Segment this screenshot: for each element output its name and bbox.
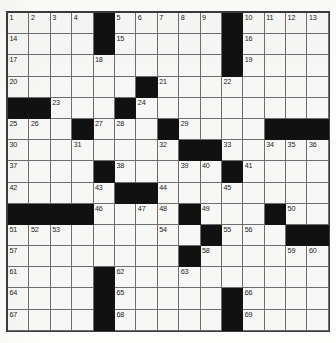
crossword-open-cell[interactable] [243,204,264,225]
crossword-open-cell[interactable] [94,246,115,267]
crossword-open-cell[interactable] [307,161,328,182]
crossword-open-cell[interactable] [51,55,72,76]
crossword-open-cell[interactable] [307,183,328,204]
crossword-open-cell[interactable] [51,246,72,267]
crossword-open-cell[interactable] [286,267,307,288]
crossword-open-cell[interactable] [136,161,157,182]
crossword-open-cell[interactable] [201,34,222,55]
crossword-open-cell[interactable]: 19 [243,55,264,76]
crossword-open-cell[interactable]: 21 [158,77,179,98]
crossword-open-cell[interactable]: 68 [115,310,136,331]
crossword-open-cell[interactable]: 67 [8,310,29,331]
crossword-open-cell[interactable] [29,55,50,76]
crossword-open-cell[interactable] [72,225,93,246]
crossword-open-cell[interactable] [29,246,50,267]
crossword-open-cell[interactable] [94,98,115,119]
crossword-open-cell[interactable] [136,34,157,55]
crossword-open-cell[interactable] [179,77,200,98]
crossword-open-cell[interactable] [286,98,307,119]
crossword-open-cell[interactable]: 61 [8,267,29,288]
crossword-open-cell[interactable]: 20 [8,77,29,98]
crossword-open-cell[interactable] [72,310,93,331]
crossword-open-cell[interactable] [243,267,264,288]
crossword-open-cell[interactable] [222,246,243,267]
crossword-open-cell[interactable] [72,77,93,98]
crossword-open-cell[interactable] [29,161,50,182]
crossword-open-cell[interactable] [243,183,264,204]
crossword-open-cell[interactable]: 60 [307,246,328,267]
crossword-open-cell[interactable] [136,267,157,288]
crossword-open-cell[interactable] [265,161,286,182]
crossword-open-cell[interactable]: 53 [51,225,72,246]
crossword-open-cell[interactable]: 22 [222,77,243,98]
crossword-open-cell[interactable]: 5 [115,13,136,34]
crossword-open-cell[interactable] [158,34,179,55]
crossword-open-cell[interactable] [286,34,307,55]
crossword-open-cell[interactable] [307,77,328,98]
crossword-open-cell[interactable] [201,267,222,288]
crossword-open-cell[interactable]: 54 [158,225,179,246]
crossword-open-cell[interactable] [51,77,72,98]
crossword-open-cell[interactable] [51,267,72,288]
crossword-open-cell[interactable]: 33 [222,140,243,161]
crossword-open-cell[interactable] [115,204,136,225]
crossword-open-cell[interactable] [158,98,179,119]
crossword-open-cell[interactable]: 30 [8,140,29,161]
crossword-open-cell[interactable] [29,267,50,288]
crossword-open-cell[interactable] [51,183,72,204]
crossword-open-cell[interactable] [72,161,93,182]
crossword-open-cell[interactable]: 26 [29,119,50,140]
crossword-open-cell[interactable]: 55 [222,225,243,246]
crossword-open-cell[interactable]: 34 [265,140,286,161]
crossword-open-cell[interactable] [72,34,93,55]
crossword-open-cell[interactable]: 45 [222,183,243,204]
crossword-open-cell[interactable] [115,77,136,98]
crossword-open-cell[interactable] [265,288,286,309]
crossword-open-cell[interactable] [29,140,50,161]
crossword-open-cell[interactable]: 43 [94,183,115,204]
crossword-open-cell[interactable]: 1 [8,13,29,34]
crossword-open-cell[interactable] [136,140,157,161]
crossword-open-cell[interactable]: 44 [158,183,179,204]
crossword-open-cell[interactable]: 49 [201,204,222,225]
crossword-open-cell[interactable] [72,267,93,288]
crossword-open-cell[interactable]: 15 [115,34,136,55]
crossword-open-cell[interactable] [265,310,286,331]
crossword-open-cell[interactable] [222,267,243,288]
crossword-open-cell[interactable] [51,119,72,140]
crossword-open-cell[interactable] [243,140,264,161]
crossword-open-cell[interactable] [307,55,328,76]
crossword-open-cell[interactable] [201,310,222,331]
crossword-open-cell[interactable]: 36 [307,140,328,161]
crossword-open-cell[interactable] [136,310,157,331]
crossword-open-cell[interactable] [307,288,328,309]
crossword-open-cell[interactable] [222,204,243,225]
crossword-open-cell[interactable] [72,98,93,119]
crossword-open-cell[interactable]: 41 [243,161,264,182]
crossword-open-cell[interactable]: 46 [94,204,115,225]
crossword-open-cell[interactable] [286,55,307,76]
crossword-open-cell[interactable]: 35 [286,140,307,161]
crossword-open-cell[interactable]: 13 [307,13,328,34]
crossword-open-cell[interactable] [201,98,222,119]
crossword-open-cell[interactable]: 4 [72,13,93,34]
crossword-open-cell[interactable] [265,183,286,204]
crossword-open-cell[interactable]: 28 [115,119,136,140]
crossword-open-cell[interactable] [72,183,93,204]
crossword-open-cell[interactable] [115,55,136,76]
crossword-open-cell[interactable] [179,34,200,55]
crossword-open-cell[interactable] [201,288,222,309]
crossword-open-cell[interactable]: 24 [136,98,157,119]
crossword-open-cell[interactable]: 12 [286,13,307,34]
crossword-open-cell[interactable] [115,225,136,246]
crossword-open-cell[interactable]: 52 [29,225,50,246]
crossword-open-cell[interactable] [29,288,50,309]
crossword-open-cell[interactable]: 27 [94,119,115,140]
crossword-open-cell[interactable] [307,98,328,119]
crossword-open-cell[interactable]: 18 [94,55,115,76]
crossword-open-cell[interactable] [51,140,72,161]
crossword-open-cell[interactable] [265,98,286,119]
crossword-open-cell[interactable]: 39 [179,161,200,182]
crossword-open-cell[interactable]: 23 [51,98,72,119]
crossword-open-cell[interactable]: 59 [286,246,307,267]
